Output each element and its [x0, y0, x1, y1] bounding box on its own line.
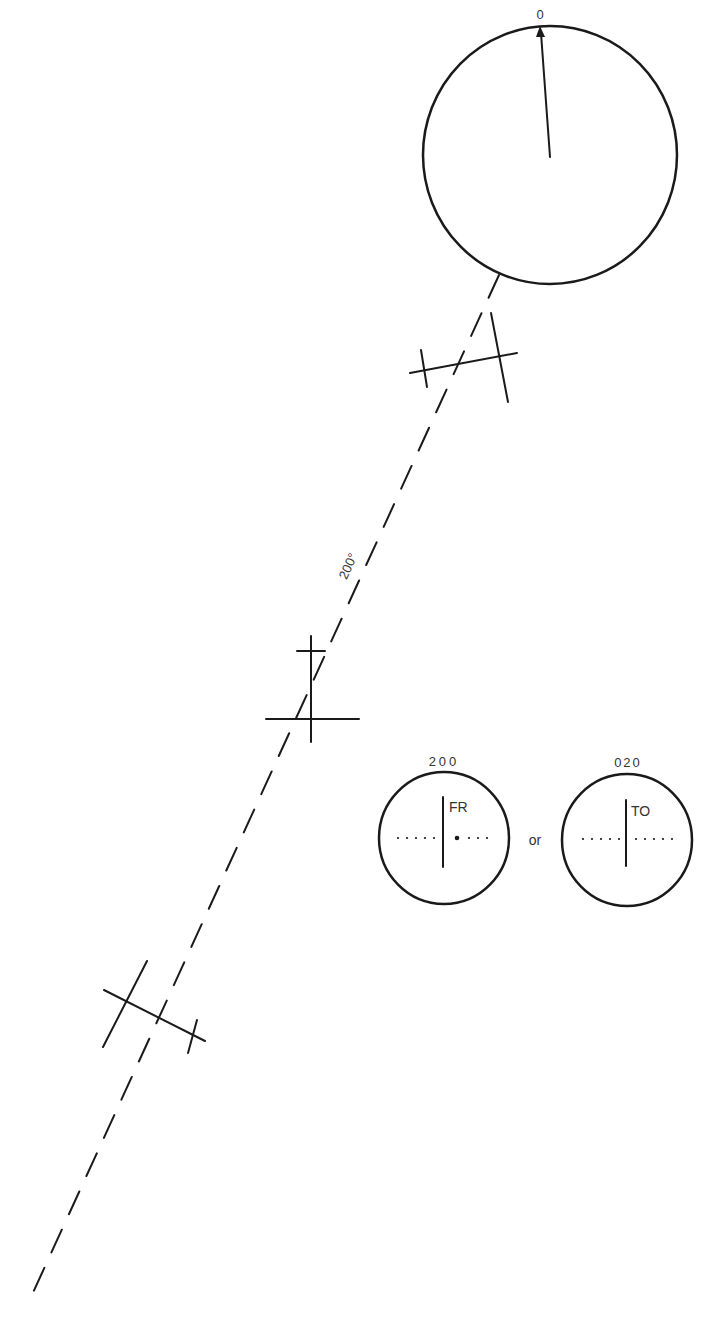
- cdi-2-obs-setting: 020: [614, 755, 642, 770]
- or-text: or: [529, 832, 542, 848]
- cdi-2-dots: [582, 838, 673, 840]
- vor-diagram: 0 200° 200 FR: [0, 0, 708, 1326]
- heading-label: 0: [536, 7, 543, 22]
- cdi-indicator-to: 020 TO: [562, 755, 692, 906]
- aircraft-3: [103, 961, 205, 1053]
- cdi-2-flag: TO: [631, 803, 650, 819]
- aircraft-1: [410, 313, 517, 402]
- cdi-indicator-from: 200 FR: [379, 754, 509, 904]
- cdi-1-flag: FR: [449, 799, 468, 815]
- aircraft-3-wing: [103, 961, 147, 1047]
- aircraft-1-tail: [421, 350, 427, 387]
- cdi-1-obs-setting: 200: [429, 754, 460, 769]
- aircraft-2: [266, 636, 359, 742]
- course-line-dashed: [31, 275, 499, 1297]
- heading-needle: [541, 33, 550, 157]
- heading-indicator: 0: [423, 7, 677, 284]
- course-line-label: 200°: [335, 551, 360, 582]
